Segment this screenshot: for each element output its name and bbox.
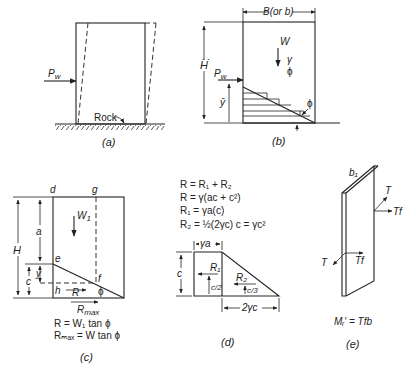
ground-hatch <box>55 125 165 130</box>
svg-text:c: c <box>177 268 182 279</box>
svg-text:c/3: c/3 <box>247 286 258 295</box>
panel-a: Pw Rock (a) <box>44 23 165 148</box>
slice-lines <box>243 93 310 116</box>
plate-face <box>342 166 374 296</box>
plate-label: b₁ <box>349 167 358 178</box>
svg-text:ϕ: ϕ <box>98 286 104 297</box>
svg-text:H: H <box>200 59 208 71</box>
svg-text:R: R <box>72 287 79 298</box>
rock-label: Rock <box>94 112 118 123</box>
dam-block-b <box>243 22 315 123</box>
svg-text:ϕ: ϕ <box>287 66 293 77</box>
svg-text:c: c <box>26 276 31 287</box>
panel-e: b₁ T Tf T Tf Mᵣ' = Tfb (e) <box>321 166 403 350</box>
equation-c2: Rₘₐₓ = W tan ϕ <box>54 330 121 341</box>
panel-b: B(or b) H H W γ ϕ Pw ȳ ϕ (b) <box>199 6 340 147</box>
svg-text:y: y <box>35 268 42 279</box>
force-label-pw: Pw <box>48 68 62 81</box>
svg-text:H: H <box>13 244 21 256</box>
svg-text:ȳ: ȳ <box>219 97 226 108</box>
svg-text:h: h <box>55 285 61 296</box>
svg-text:2γc: 2γc <box>241 302 258 313</box>
svg-text:e: e <box>55 253 61 264</box>
svg-text:R₂: R₂ <box>236 272 247 283</box>
svg-text:d: d <box>50 184 56 195</box>
svg-text:Tf: Tf <box>393 206 403 217</box>
t-arrow-top <box>374 197 387 211</box>
t-arrow-bottom <box>333 253 345 265</box>
caption-b: (b) <box>272 135 286 147</box>
svg-text:g: g <box>92 184 98 195</box>
svg-text:γa: γa <box>200 238 211 249</box>
deflected-right-dashed <box>146 23 156 124</box>
equation-d4: R₂ = ½(2γc) c = γc² <box>180 219 266 230</box>
equation-d3: R₁ = γa(c) <box>180 205 224 216</box>
svg-text:ϕ: ϕ <box>307 98 313 109</box>
svg-text:Pw: Pw <box>214 68 228 81</box>
svg-text:T: T <box>321 257 328 268</box>
equation-d1: R = R₁ + R₂ <box>180 179 232 190</box>
caption-e: (e) <box>346 338 360 350</box>
caption-d: (d) <box>221 336 235 348</box>
failure-plane-c <box>53 264 124 298</box>
equation-c1: R = W₁ tan ϕ <box>54 318 111 329</box>
engineering-figure: Pw Rock (a) B(or b) H H W γ ϕ Pw ȳ <box>0 0 416 373</box>
panel-c: d g e f h H a c y W1 R ϕ Rmax R = W₁ tan… <box>12 184 124 363</box>
equation-d2: R = γ(ac + c²) <box>180 192 241 203</box>
svg-text:W: W <box>280 36 291 47</box>
svg-text:Rmax: Rmax <box>77 304 100 317</box>
caption-a: (a) <box>102 136 116 148</box>
width-label: B(or b) <box>263 6 294 17</box>
svg-text:W1: W1 <box>77 210 91 223</box>
svg-text:c/2: c/2 <box>211 283 222 292</box>
moment-equation: Mᵣ' = Tfb <box>334 316 372 327</box>
svg-text:Tf: Tf <box>355 255 365 266</box>
svg-text:a: a <box>36 226 42 237</box>
svg-text:T: T <box>385 185 392 196</box>
caption-c: (c) <box>80 351 93 363</box>
svg-text:f: f <box>98 273 102 284</box>
svg-text:R₁: R₁ <box>210 262 220 273</box>
deflected-left-dashed <box>78 23 88 124</box>
svg-text:γ: γ <box>287 54 293 65</box>
panel-d: R = R₁ + R₂ R = γ(ac + c²) R₁ = γa(c) R₂… <box>176 179 279 348</box>
dam-block-outline <box>76 23 145 124</box>
